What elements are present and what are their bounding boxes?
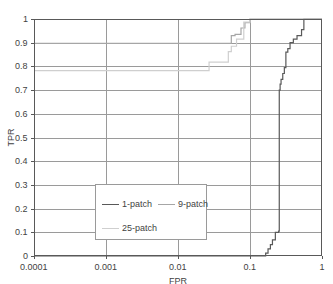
y-tick-label: 0.5 (15, 133, 28, 143)
y-tick-label: 0.4 (15, 156, 28, 166)
legend-swatch-25-patch (102, 228, 119, 229)
x-axis-title: FPR (169, 276, 187, 284)
legend-label: 25-patch (122, 223, 157, 233)
legend-swatch-1-patch (102, 204, 119, 205)
y-tick-label: 0.1 (15, 227, 28, 237)
legend-item-25-patch[interactable]: 25-patch (102, 223, 157, 233)
legend-item-1-patch[interactable]: 1-patch (102, 199, 152, 209)
legend-swatch-9-patch (158, 204, 175, 205)
x-tick-label: 0.0001 (20, 262, 48, 272)
legend-label: 9-patch (178, 199, 208, 209)
y-tick-label: 0.3 (15, 180, 28, 190)
y-tick-label: 0.9 (15, 38, 28, 48)
roc-chart: TPR 0.00010.0010.010.11 00.10.20.30.40.5… (0, 0, 333, 284)
y-tick-label: 0.2 (15, 204, 28, 214)
legend-item-9-patch[interactable]: 9-patch (158, 199, 208, 209)
x-tick-label: 0.001 (95, 262, 118, 272)
y-tick-label: 1 (23, 14, 28, 24)
x-tick-label: 1 (320, 262, 325, 272)
legend-label: 1-patch (122, 199, 152, 209)
y-tick-label: 0.8 (15, 61, 28, 71)
x-tick-label: 0.01 (169, 262, 187, 272)
y-tick-label: 0.6 (15, 109, 28, 119)
plot-canvas: TPR (0, 0, 333, 284)
y-tick-label: 0.7 (15, 85, 28, 95)
x-tick-label: 0.1 (244, 262, 257, 272)
y-tick-label: 0 (23, 251, 28, 261)
chart-legend: 1-patch9-patch25-patch (95, 184, 207, 240)
